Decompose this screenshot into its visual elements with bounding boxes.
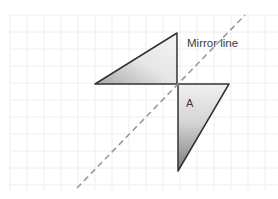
shape-label-a: A [186, 97, 194, 109]
reflection-diagram: Mirror line A [0, 0, 278, 199]
reflected-triangle [95, 33, 177, 84]
mirror-line-label: Mirror line [187, 37, 238, 49]
